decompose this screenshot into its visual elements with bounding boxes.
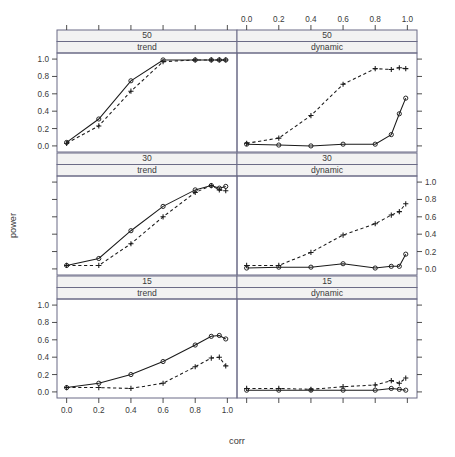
- y-tick-label-right: 0.0: [425, 265, 437, 274]
- series-line-plus-dashed-30-trend: [67, 186, 226, 266]
- data-point-plus: [397, 65, 402, 70]
- data-point-plus: [373, 221, 378, 226]
- plot-canvas: 50trend50dynamic30trend30dynamic15trend1…: [0, 0, 455, 457]
- x-tick-label-top: 0.8: [370, 15, 382, 24]
- panel-border-15-dynamic: [237, 299, 417, 398]
- panel-border-50-dynamic: [237, 53, 417, 152]
- data-point-plus: [96, 123, 101, 128]
- data-point-plus: [209, 355, 214, 360]
- panel-30-dynamic: [237, 176, 417, 275]
- series-line-plus-dashed-15-dynamic: [247, 378, 406, 389]
- strip-label-type-15-trend: trend: [137, 288, 157, 298]
- strip-label-n-30-dynamic: 30: [322, 153, 332, 163]
- data-point-plus: [223, 188, 228, 193]
- strip-label-type-50-trend: trend: [137, 42, 157, 52]
- strip-label-type-15-dynamic: dynamic: [311, 288, 344, 298]
- y-tick-label-right: 0.8: [425, 195, 437, 204]
- x-tick-label-top: 0.0: [241, 15, 253, 24]
- data-point-plus: [389, 212, 394, 217]
- series-line-circle-solid-50-dynamic: [247, 98, 406, 146]
- strip-label-n-30-trend: 30: [142, 153, 152, 163]
- y-tick-label-left: 0.2: [38, 371, 50, 380]
- panel-border-50-trend: [57, 53, 237, 152]
- x-tick-label-bottom: 0.8: [190, 406, 202, 415]
- x-tick-label-top: 0.6: [337, 15, 349, 24]
- data-point-plus: [389, 378, 394, 383]
- series-line-circle-solid-15-trend: [67, 335, 226, 387]
- data-point-plus: [96, 263, 101, 268]
- x-tick-label-bottom: 0.4: [125, 406, 137, 415]
- y-tick-label-left: 1.0: [38, 55, 50, 64]
- panel-border-30-trend: [57, 176, 237, 275]
- panel-border-15-trend: [57, 299, 237, 398]
- series-line-plus-dashed-15-trend: [67, 357, 226, 388]
- strip-label-n-15-trend: 15: [142, 276, 152, 286]
- x-tick-label-bottom: 0.0: [61, 406, 73, 415]
- y-tick-label-left: 0.0: [38, 388, 50, 397]
- data-point-plus: [403, 201, 408, 206]
- data-point-plus: [128, 241, 133, 246]
- y-tick-label-right: 1.0: [425, 178, 437, 187]
- y-tick-label-left: 0.8: [38, 72, 50, 81]
- strip-label-type-50-dynamic: dynamic: [311, 42, 344, 52]
- y-tick-label-left: 1.0: [38, 301, 50, 310]
- x-axis-title: corr: [229, 436, 245, 446]
- series-line-circle-solid-50-trend: [67, 60, 226, 143]
- data-point-plus: [373, 382, 378, 387]
- y-tick-label-left: 0.2: [38, 125, 50, 134]
- y-tick-label-left: 0.8: [38, 318, 50, 327]
- y-axis-title: power: [8, 213, 18, 238]
- series-line-plus-dashed-50-trend: [67, 60, 226, 143]
- data-point-plus: [193, 364, 198, 369]
- y-tick-label-left: 0.4: [38, 353, 50, 362]
- data-point-plus: [340, 232, 345, 237]
- y-tick-label-right: 0.4: [425, 230, 437, 239]
- y-tick-label-left: 0.6: [38, 336, 50, 345]
- x-tick-label-top: 0.2: [273, 15, 285, 24]
- panel-50-trend: [57, 53, 237, 152]
- y-tick-label-left: 0.6: [38, 90, 50, 99]
- strip-label-n-50-dynamic: 50: [322, 30, 332, 40]
- y-tick-label-left: 0.0: [38, 142, 50, 151]
- x-tick-label-bottom: 1.0: [222, 406, 234, 415]
- panel-border-30-dynamic: [237, 176, 417, 275]
- y-tick-label-left: 0.4: [38, 107, 50, 116]
- panel-15-dynamic: [237, 299, 417, 398]
- strip-label-type-30-dynamic: dynamic: [311, 165, 344, 175]
- panel-30-trend: [57, 176, 237, 275]
- trellis-plot-figure: 50trend50dynamic30trend30dynamic15trend1…: [0, 0, 455, 457]
- data-point-plus: [389, 67, 394, 72]
- x-tick-label-bottom: 0.2: [93, 406, 105, 415]
- y-tick-label-right: 0.6: [425, 213, 437, 222]
- x-tick-label-top: 0.4: [305, 15, 317, 24]
- data-point-plus: [397, 381, 402, 386]
- strip-label-n-15-dynamic: 15: [322, 276, 332, 286]
- x-tick-label-top: 1.0: [402, 15, 414, 24]
- data-point-plus: [217, 355, 222, 360]
- strip-label-n-50-trend: 50: [142, 30, 152, 40]
- data-point-plus: [308, 113, 313, 118]
- series-line-plus-dashed-30-dynamic: [247, 204, 406, 266]
- data-point-plus: [403, 66, 408, 71]
- data-point-plus: [340, 82, 345, 87]
- data-point-plus: [397, 209, 402, 214]
- data-point-plus: [223, 363, 228, 368]
- y-tick-label-right: 0.2: [425, 248, 437, 257]
- panel-50-dynamic: [237, 53, 417, 152]
- data-point-plus: [128, 386, 133, 391]
- strip-label-type-30-trend: trend: [137, 165, 157, 175]
- data-point-plus: [308, 250, 313, 255]
- x-tick-label-bottom: 0.6: [157, 406, 169, 415]
- panel-15-trend: [57, 299, 237, 398]
- data-point-plus: [160, 381, 165, 386]
- series-line-plus-dashed-50-dynamic: [247, 68, 406, 144]
- series-line-circle-solid-30-trend: [67, 186, 226, 266]
- data-point-plus: [96, 385, 101, 390]
- data-point-plus: [373, 66, 378, 71]
